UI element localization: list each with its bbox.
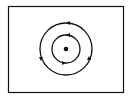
orbit-diagram <box>0 0 131 100</box>
nucleus-dot <box>64 47 69 52</box>
